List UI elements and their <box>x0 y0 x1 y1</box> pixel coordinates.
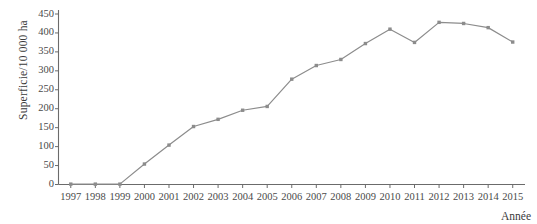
data-point-marker <box>192 125 195 128</box>
data-point-markers <box>69 21 514 186</box>
axis-lines <box>59 10 526 185</box>
axis-ticks <box>55 14 513 188</box>
data-line-series-superficie <box>71 22 513 184</box>
data-point-marker <box>216 118 219 121</box>
data-point-marker <box>462 22 465 25</box>
data-point-marker <box>315 64 318 67</box>
data-point-marker <box>118 182 121 185</box>
chart-figure: Superficie/10 000 ha 0501001502002503003… <box>0 0 537 224</box>
plot-area <box>0 0 537 224</box>
data-point-marker <box>94 182 97 185</box>
data-point-marker <box>69 182 72 185</box>
data-point-marker <box>486 26 489 29</box>
x-axis-title: Année <box>501 210 531 222</box>
data-point-marker <box>511 40 514 43</box>
data-point-marker <box>437 21 440 24</box>
data-point-marker <box>413 41 416 44</box>
data-point-marker <box>143 162 146 165</box>
data-point-marker <box>167 143 170 146</box>
data-point-marker <box>241 109 244 112</box>
data-point-marker <box>339 58 342 61</box>
data-point-marker <box>266 105 269 108</box>
data-point-marker <box>388 27 391 30</box>
data-point-marker <box>364 42 367 45</box>
data-point-marker <box>290 77 293 80</box>
